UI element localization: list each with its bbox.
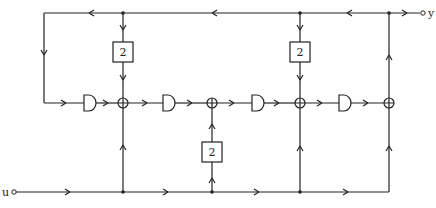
main-row: [44, 95, 394, 111]
delay-1: [84, 95, 96, 111]
block-diagram: y 2 2: [0, 0, 436, 208]
output-label: y: [427, 7, 435, 20]
delay-2: [163, 95, 175, 111]
input-terminal: [12, 190, 16, 194]
input-label: u: [2, 186, 9, 199]
output-terminal: [421, 11, 425, 15]
gain-block-2-label: 2: [209, 146, 216, 159]
top-feedback-wire: [41, 10, 420, 103]
delay-3: [252, 95, 264, 111]
delay-4: [339, 95, 351, 111]
gain-block-3-label: 2: [297, 46, 304, 59]
gain-block-1-label: 2: [120, 46, 127, 59]
